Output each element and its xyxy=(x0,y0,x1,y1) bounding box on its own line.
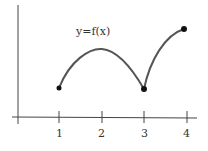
x-tick-label-3: 3 xyxy=(141,127,148,140)
point-x3 xyxy=(141,86,147,92)
x-tick-label-2: 2 xyxy=(98,127,105,140)
x-tick-label-1: 1 xyxy=(56,127,63,140)
function-label: y=f(x) xyxy=(76,25,110,38)
point-x4 xyxy=(181,26,187,32)
x-axis xyxy=(12,117,197,118)
point-x1 xyxy=(57,86,62,91)
function-graph: y=f(x) 1 2 3 4 xyxy=(0,0,208,151)
x-tick-label-4: 4 xyxy=(183,127,190,140)
curve-segment-3-4 xyxy=(144,29,184,89)
curve-segment-1-3 xyxy=(59,49,144,89)
